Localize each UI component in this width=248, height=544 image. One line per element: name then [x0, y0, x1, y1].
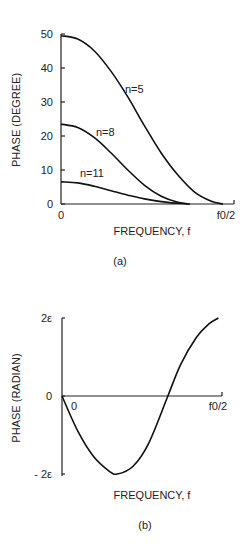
- y-tick-label: 10: [41, 164, 53, 176]
- y-tick-label: 2ε: [41, 312, 52, 324]
- y-tick-label: 50: [41, 28, 53, 40]
- chart-a-curve-labels: n=5n=8n=11: [80, 83, 144, 179]
- chart-b-y-axis-label: PHASE (RADIAN): [10, 353, 22, 442]
- chart-b-y-ticks: 2ε0- 2ε: [34, 312, 65, 480]
- y-tick-label: 30: [41, 96, 53, 108]
- x-tick-label: 0: [58, 209, 64, 221]
- chart-b-x-axis-label: FREQUENCY, f: [114, 489, 192, 501]
- curve-label: n=8: [96, 126, 115, 138]
- chart-b: 2ε0- 2ε 0f0/2 PHASE (RADIAN) FREQUENCY, …: [10, 312, 227, 531]
- y-tick-label: 20: [41, 130, 53, 142]
- chart-a-x-axis-label: FREQUENCY, f: [114, 225, 192, 237]
- chart-a-caption: (a): [113, 255, 126, 267]
- chart-a: 01020304050 0f0/2 n=5n=8n=11 PHASE (DEGR…: [10, 28, 235, 267]
- chart-a-y-axis-label: PHASE (DEGREE): [10, 73, 22, 167]
- figure-canvas: 01020304050 0f0/2 n=5n=8n=11 PHASE (DEGR…: [0, 0, 248, 544]
- chart-b-x-ticks: 0f0/2: [71, 400, 227, 412]
- x-tick-label: f0/2: [209, 400, 227, 412]
- x-tick-label: 0: [71, 400, 77, 412]
- y-tick-label: 0: [47, 198, 53, 210]
- x-tick-label: f0/2: [217, 209, 235, 221]
- chart-a-x-ticks: 0f0/2: [58, 209, 235, 221]
- y-tick-label: - 2ε: [34, 468, 52, 480]
- curve-label: n=5: [125, 83, 144, 95]
- chart-b-caption: (b): [138, 519, 151, 531]
- curve-n-8: [61, 124, 190, 204]
- curve-label: n=11: [80, 167, 104, 179]
- y-tick-label: 0: [46, 390, 52, 402]
- y-tick-label: 40: [41, 62, 53, 74]
- chart-b-axes: [62, 318, 222, 476]
